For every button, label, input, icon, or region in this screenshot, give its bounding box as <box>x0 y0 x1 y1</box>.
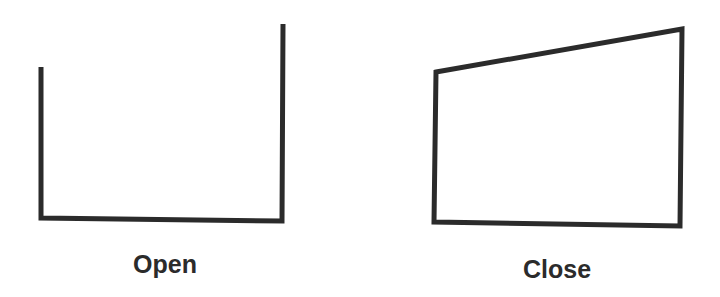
open-label: Open <box>133 250 197 279</box>
diagram-canvas <box>0 0 720 297</box>
open-shape <box>41 24 283 221</box>
close-label: Close <box>523 255 591 284</box>
closed-shape <box>434 29 682 226</box>
